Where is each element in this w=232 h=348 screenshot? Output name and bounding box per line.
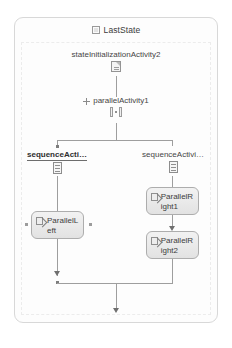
connector-join-to-end: [116, 283, 117, 311]
parallel-activity-label-row[interactable]: parallelActivity1: [83, 96, 149, 106]
expand-plus-icon[interactable]: [83, 98, 90, 105]
code-activity-icon-2: [151, 236, 158, 246]
parallel-bar-left: [110, 107, 113, 117]
connector-init-to-parallel: [116, 76, 117, 97]
parallel-activity-icon[interactable]: [109, 107, 123, 117]
parallel-bar-right: [119, 107, 122, 117]
state-initialization-activity-icon[interactable]: [111, 61, 121, 72]
node-parallel-activity[interactable]: parallelActivity1: [62, 96, 170, 117]
connector-fork-horizontal: [57, 140, 173, 141]
code-activity-icon: [151, 192, 158, 202]
connector-parallelright2-down: [172, 259, 173, 283]
arrowhead-end: [113, 308, 119, 313]
selection-handle-right[interactable]: [89, 223, 92, 226]
state-title: LastState: [104, 25, 141, 35]
node-state-initialization-activity[interactable]: stateInitializationActivity2: [44, 50, 188, 72]
connector-fork-right-drop: [172, 140, 173, 146]
state-initialization-label: stateInitializationActivity2: [72, 50, 161, 60]
state-square-icon: [92, 26, 100, 34]
workflow-designer-canvas[interactable]: LastState stateInitializationActivity2 p…: [0, 0, 232, 348]
connector-seqleft-to-parallelleft: [57, 176, 58, 211]
sequence-left-label: sequenceActi…: [27, 150, 87, 161]
selection-handle-left[interactable]: [25, 223, 28, 226]
sequence-right-label: sequenceActivi…: [142, 150, 204, 160]
arrowhead-left-join: [54, 271, 60, 276]
connector-join-horizontal: [57, 283, 173, 284]
activity-parallelright2[interactable]: ParallelRight2: [146, 231, 199, 259]
node-sequence-left[interactable]: sequenceActi…: [22, 150, 92, 174]
connector-parallel-down: [116, 123, 117, 140]
state-header[interactable]: LastState: [15, 22, 217, 38]
parallelleft-label: ParallelLeft: [47, 216, 79, 235]
code-activity-icon-3: [36, 216, 44, 226]
connector-seqright-to-right1: [172, 176, 173, 187]
sequence-activity-icon-right[interactable]: [169, 161, 178, 173]
activity-parallelleft[interactable]: ParallelLeft: [31, 211, 84, 239]
activity-parallelright1[interactable]: ParallelRight1: [146, 187, 199, 215]
node-sequence-right[interactable]: sequenceActivi…: [138, 150, 208, 173]
parallel-dot: [115, 111, 117, 113]
parallelright2-label: ParallelRight2: [161, 236, 194, 255]
parallel-activity-label: parallelActivity1: [93, 96, 149, 106]
sequence-activity-icon[interactable]: [53, 162, 62, 174]
connector-stub-left: [56, 145, 59, 148]
parallelright1-label: ParallelRight1: [161, 192, 194, 211]
